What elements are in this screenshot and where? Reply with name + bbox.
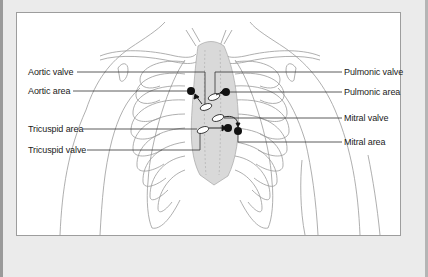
left-neck-vessel — [186, 28, 200, 46]
label-pulmonic-valve: Pulmonic valve — [344, 67, 403, 77]
heart-region — [191, 42, 238, 186]
left-ribcage — [131, 60, 185, 228]
mitral-area-marker — [234, 127, 242, 135]
right-ribcage — [235, 60, 289, 228]
right-neck-vessel — [220, 30, 232, 46]
label-pulmonic-area: Pulmonic area — [344, 87, 400, 97]
left-arm-inner-outline — [100, 88, 140, 235]
label-tricuspid-area: Tricuspid area — [28, 124, 83, 134]
aortic-area-marker — [187, 87, 195, 95]
label-aortic-valve: Aortic valve — [28, 67, 73, 77]
right-arm-inner-outline — [278, 88, 318, 235]
label-tricuspid-valve: Tricuspid valve — [28, 145, 86, 155]
label-aortic-area: Aortic area — [28, 86, 70, 96]
label-mitral-area: Mitral area — [344, 137, 385, 147]
right-torso-outline — [250, 22, 360, 235]
left-clavicle — [100, 51, 196, 58]
label-mitral-valve: Mitral valve — [344, 113, 388, 123]
right-clavicle — [224, 51, 320, 58]
